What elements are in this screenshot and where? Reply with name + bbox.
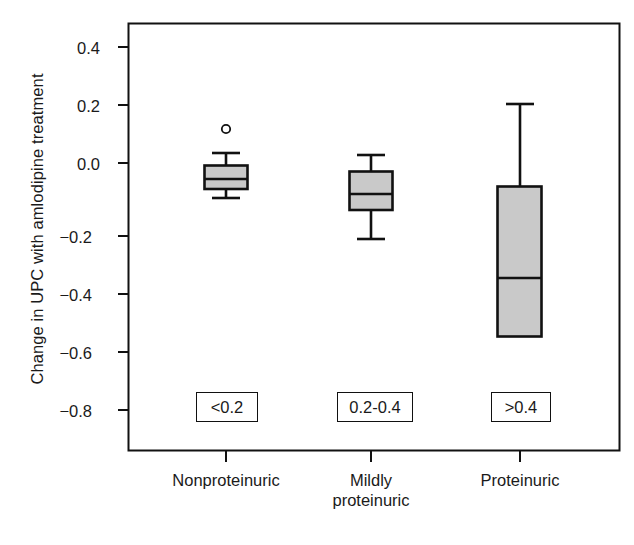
annotation-box-group1: <0.2 [196, 392, 258, 422]
annotation-box-group3: >0.4 [491, 392, 551, 422]
x-tick-marks [226, 450, 520, 462]
box-proteinuric [497, 104, 542, 337]
annotation-box-group2: 0.2-0.4 [337, 392, 413, 422]
box-nonproteinuric [204, 125, 248, 198]
box-mildly-proteinuric [349, 155, 393, 239]
box-body [498, 187, 542, 337]
box-body [350, 172, 393, 211]
x-tick-label-nonproteinuric: Nonproteinuric [146, 470, 306, 490]
x-tick-label-mildly-proteinuric: Mildly proteinuric [306, 470, 436, 510]
x-tick-label-proteinuric: Proteinuric [448, 470, 592, 490]
outlier-point [222, 125, 230, 133]
y-tick-marks [118, 47, 128, 410]
boxplot-figure: Change in UPC with amlodipine treatment … [0, 0, 634, 545]
plot-frame [129, 24, 620, 451]
plot-canvas [0, 0, 634, 545]
box-body [205, 166, 248, 190]
